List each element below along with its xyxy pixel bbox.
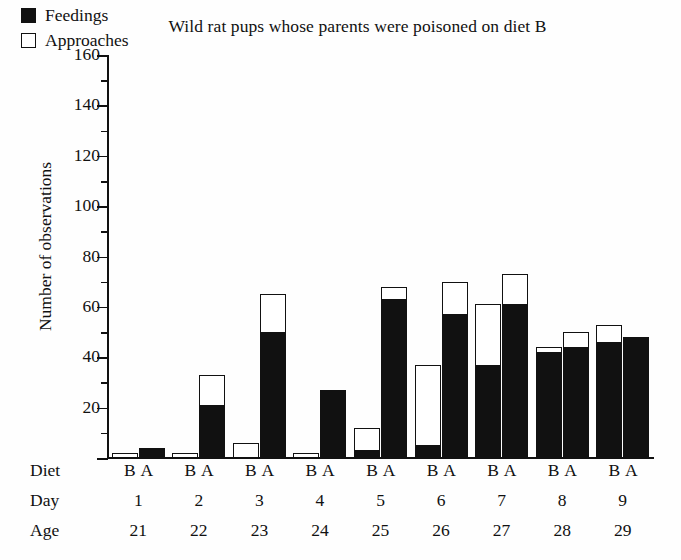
x-axis-row-label-diet: Diet	[30, 462, 100, 480]
y-tick-minor	[101, 231, 108, 233]
bar-segment-feedings	[139, 448, 165, 458]
bar-diet-a	[139, 448, 165, 458]
diet-symbol-a: A	[320, 462, 337, 480]
diet-symbol-b: B	[485, 462, 502, 480]
y-tick-major	[97, 408, 108, 410]
legend-item-feedings: Feedings	[21, 4, 129, 27]
bar-segment-approaches	[293, 453, 319, 458]
x-cell-age: 23	[229, 522, 289, 540]
y-tick-minor	[101, 131, 108, 133]
y-axis-tick-labels: 20406080100120140160	[42, 55, 100, 458]
diet-symbol-b: B	[424, 462, 441, 480]
diet-symbol-b: B	[182, 462, 199, 480]
x-cell-diet: BA	[351, 462, 411, 480]
bar-diet-b	[172, 453, 198, 458]
y-tick-minor	[101, 332, 108, 334]
y-tick-major	[97, 156, 108, 158]
bar-segment-feedings	[354, 450, 380, 458]
x-cell-diet: BA	[532, 462, 592, 480]
bar-group	[293, 55, 346, 458]
x-cell-diet: BA	[108, 462, 168, 480]
bar-diet-b	[415, 365, 441, 458]
y-tick-label: 80	[44, 248, 100, 266]
bar-diet-b	[475, 304, 501, 458]
bar-group	[172, 55, 225, 458]
x-cell-age: 28	[532, 522, 592, 540]
diet-symbol-b: B	[545, 462, 562, 480]
legend-label-feedings: Feedings	[45, 7, 108, 25]
bar-group	[475, 55, 528, 458]
legend-swatch-feedings-icon	[21, 8, 36, 23]
x-cell-day: 2	[169, 492, 229, 510]
bar-series	[108, 55, 653, 458]
bar-segment-feedings	[320, 390, 346, 458]
y-tick-label: 120	[44, 147, 100, 165]
diet-symbol-a: A	[502, 462, 519, 480]
bar-segment-feedings	[381, 299, 407, 458]
diet-symbol-a: A	[441, 462, 458, 480]
bar-segment-feedings	[536, 352, 562, 458]
bar-diet-a	[442, 282, 468, 458]
bar-segment-feedings	[415, 445, 441, 458]
bar-diet-a	[199, 375, 225, 458]
diet-symbol-b: B	[364, 462, 381, 480]
x-cell-age: 26	[411, 522, 471, 540]
y-tick-label: 40	[44, 348, 100, 366]
diet-symbol-b: B	[121, 462, 138, 480]
bar-diet-a	[320, 390, 346, 458]
x-cell-day: 5	[351, 492, 411, 510]
bar-diet-b	[233, 443, 259, 458]
y-tick-minor	[101, 181, 108, 183]
diet-symbol-b: B	[242, 462, 259, 480]
y-tick-label: 140	[44, 96, 100, 114]
x-cell-age: 27	[472, 522, 532, 540]
bar-segment-feedings	[596, 342, 622, 458]
bar-group	[536, 55, 589, 458]
x-axis-row-age: Age 212223242526272829	[0, 522, 681, 549]
x-cell-day: 1	[108, 492, 168, 510]
legend-swatch-approaches-icon	[21, 33, 36, 48]
bar-segment-feedings	[199, 405, 225, 458]
diet-symbol-a: A	[199, 462, 216, 480]
x-cell-diet: BA	[411, 462, 471, 480]
bar-diet-a	[381, 287, 407, 458]
bar-diet-b	[354, 428, 380, 458]
x-cell-age: 29	[593, 522, 653, 540]
bar-group	[233, 55, 286, 458]
x-axis-row-label-day: Day	[30, 492, 100, 510]
x-cell-day: 8	[532, 492, 592, 510]
y-tick-major	[97, 257, 108, 259]
y-tick-minor	[101, 80, 108, 82]
x-cell-diet: BA	[229, 462, 289, 480]
bar-group	[596, 55, 649, 458]
bar-segment-feedings	[623, 337, 649, 458]
y-tick-major	[97, 206, 108, 208]
bar-segment-approaches	[233, 443, 259, 458]
x-cell-age: 25	[351, 522, 411, 540]
y-tick-minor	[101, 382, 108, 384]
chart-figure: Wild rat pups whose parents were poisone…	[0, 0, 681, 560]
bar-diet-b	[596, 325, 622, 458]
plot-area	[108, 55, 653, 458]
bar-segment-approaches	[415, 365, 441, 458]
bar-segment-approaches	[172, 453, 198, 458]
bar-diet-a	[260, 294, 286, 458]
y-tick-label: 100	[44, 197, 100, 215]
bar-group	[354, 55, 407, 458]
bar-group	[415, 55, 468, 458]
x-cell-age: 22	[169, 522, 229, 540]
y-tick-major	[97, 357, 108, 359]
bar-segment-feedings	[502, 304, 528, 458]
bar-segment-feedings	[442, 314, 468, 458]
x-cell-diet: BA	[169, 462, 229, 480]
x-cell-diet: BA	[472, 462, 532, 480]
legend-label-approaches: Approaches	[45, 32, 129, 50]
x-cell-diet: BA	[593, 462, 653, 480]
bar-diet-b	[293, 453, 319, 458]
bar-diet-a	[623, 337, 649, 458]
diet-symbol-a: A	[623, 462, 640, 480]
diet-symbol-a: A	[381, 462, 398, 480]
x-cell-age: 24	[290, 522, 350, 540]
bar-segment-feedings	[260, 332, 286, 458]
x-axis-row-diet: Diet BABABABABABABABABA	[0, 462, 681, 489]
